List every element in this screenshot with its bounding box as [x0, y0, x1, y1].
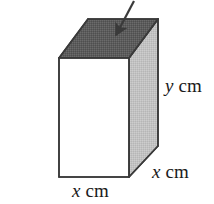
depth-label-variable: x: [152, 161, 161, 182]
depth-label-unit: cm: [165, 161, 188, 182]
width-label: x cm: [72, 181, 109, 200]
width-label-variable: x: [72, 180, 81, 201]
depth-label: x cm: [152, 162, 189, 181]
cuboid-front-face: [59, 58, 129, 177]
height-label-variable: y: [165, 75, 174, 96]
height-label-unit: cm: [178, 75, 201, 96]
geometry-figure: y cm x cm x cm: [0, 0, 214, 204]
height-label: y cm: [165, 76, 202, 95]
width-label-unit: cm: [85, 180, 108, 201]
